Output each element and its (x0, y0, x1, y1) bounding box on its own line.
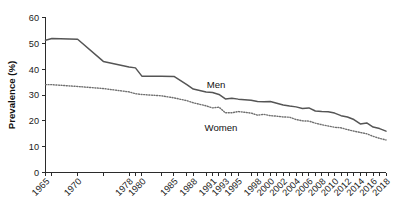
x-tick-label-1965: 1965 (30, 176, 52, 198)
y-tick-label-50: 50 (29, 39, 39, 49)
x-axis-group: 1965197019781980198519881991199319951998… (30, 173, 392, 198)
y-axis-title: Prevalence (%) (6, 61, 17, 129)
y-tick-label-20: 20 (29, 116, 39, 126)
y-tick-label-0: 0 (34, 168, 39, 178)
y-tick-label-10: 10 (29, 142, 39, 152)
series-annotations: Men Women (205, 79, 238, 133)
x-tick-label-1985: 1985 (158, 176, 180, 198)
y-tick-label-40: 40 (29, 65, 39, 75)
prevalence-line-chart: 0102030405060 Prevalence (%) 19651970197… (0, 0, 399, 208)
y-axis-group: 0102030405060 Prevalence (%) (6, 13, 46, 178)
series-label-men: Men (207, 79, 226, 90)
series-label-women: Women (205, 122, 238, 133)
y-tick-label-30: 30 (29, 90, 39, 100)
x-tick-labels: 1965197019781980198519881991199319951998… (30, 176, 392, 198)
y-tick-labels: 0102030405060 (29, 13, 39, 178)
x-tick-label-1970: 1970 (62, 176, 84, 198)
y-tick-label-60: 60 (29, 13, 39, 23)
x-tick-label-1988: 1988 (178, 176, 200, 198)
chart-canvas: 0102030405060 Prevalence (%) 19651970197… (0, 0, 399, 208)
